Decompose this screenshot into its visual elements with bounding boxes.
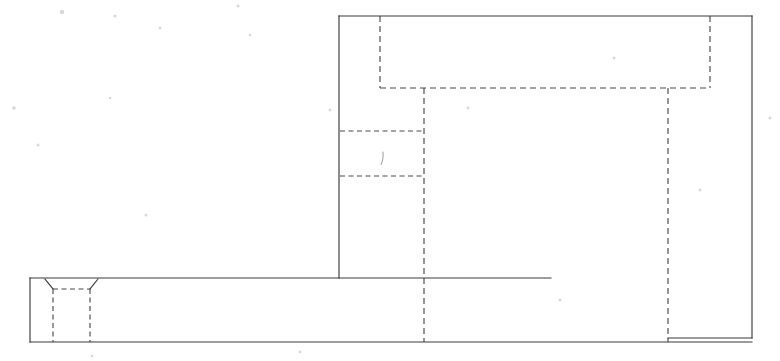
drawing-canvas xyxy=(0,0,780,361)
engineering-drawing-view: Orthographic Section View xyxy=(0,0,780,361)
drawing-background xyxy=(0,0,780,361)
